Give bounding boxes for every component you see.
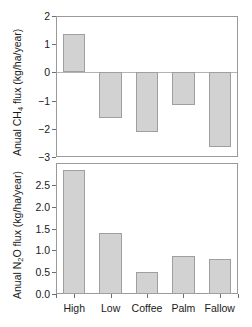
- y-tick-mark: [52, 101, 56, 102]
- y-tick-label: 1.5: [24, 224, 50, 234]
- y-axis-label-n2o-sub: 2: [16, 257, 25, 261]
- chart-panel-n2o: Anual N2O flux (kg/ha/year) 2.52.01.51.0…: [0, 162, 252, 327]
- y-tick-mark: [52, 272, 56, 273]
- figure-root: Anual CH4 flux (kg/ha/year) 210−1−2−3 An…: [0, 0, 252, 327]
- x-category-label-high: High: [56, 302, 92, 314]
- y-axis-label-n2o-post: O flux (kg/ha/year): [11, 171, 23, 257]
- x-tick-mark: [183, 294, 184, 298]
- y-tick-label: 1: [24, 39, 50, 49]
- y-axis-label-n2o: Anual N2O flux (kg/ha/year): [11, 171, 23, 299]
- x-category-label-fallow: Fallow: [202, 302, 238, 314]
- y-axis-label-ch4-post: flux (kg/ha/year): [11, 29, 23, 107]
- y-tick-label: 0.5: [24, 267, 50, 277]
- bar: [63, 170, 86, 294]
- x-category-label-low: Low: [92, 302, 128, 314]
- bar: [63, 34, 86, 72]
- bar: [136, 272, 159, 294]
- bar: [99, 233, 122, 294]
- y-tick-label: 0: [24, 67, 50, 77]
- y-tick-mark: [52, 16, 56, 17]
- chart-panel-ch4: Anual CH4 flux (kg/ha/year) 210−1−2−3: [0, 0, 252, 162]
- y-tick-mark: [52, 157, 56, 158]
- x-category-label-palm: Palm: [165, 302, 201, 314]
- y-tick-mark: [52, 185, 56, 186]
- bar: [209, 259, 232, 294]
- x-tick-mark: [74, 294, 75, 298]
- y-tick-label: −3: [24, 152, 50, 162]
- y-tick-label: −2: [24, 124, 50, 134]
- x-tick-mark-edge: [56, 294, 57, 298]
- y-tick-label: 2.0: [24, 202, 50, 212]
- y-tick-label: 2: [24, 11, 50, 21]
- y-axis-label-ch4-sub: 4: [16, 107, 25, 111]
- bar: [209, 72, 232, 146]
- figure-caption: [4, 316, 250, 326]
- x-tick-mark-edge: [238, 294, 239, 298]
- bar: [136, 72, 159, 132]
- y-axis-label-ch4-pre: Anual CH: [11, 111, 23, 156]
- bar: [172, 256, 195, 294]
- y-tick-mark: [52, 229, 56, 230]
- y-tick-mark: [52, 44, 56, 45]
- x-tick-mark: [111, 294, 112, 298]
- x-category-label-coffee: Coffee: [129, 302, 165, 314]
- x-tick-mark: [147, 294, 148, 298]
- y-tick-label: −1: [24, 96, 50, 106]
- y-tick-mark: [52, 72, 56, 73]
- y-tick-mark: [52, 129, 56, 130]
- y-axis-label-ch4: Anual CH4 flux (kg/ha/year): [11, 29, 23, 156]
- y-tick-mark: [52, 250, 56, 251]
- x-tick-mark: [220, 294, 221, 298]
- y-tick-mark: [52, 207, 56, 208]
- bar: [99, 72, 122, 117]
- y-tick-label: 1.0: [24, 245, 50, 255]
- bar: [172, 72, 195, 104]
- y-tick-label: 2.5: [24, 180, 50, 190]
- y-axis-label-n2o-pre: Anual N: [11, 262, 23, 299]
- y-tick-label: 0.0: [24, 289, 50, 299]
